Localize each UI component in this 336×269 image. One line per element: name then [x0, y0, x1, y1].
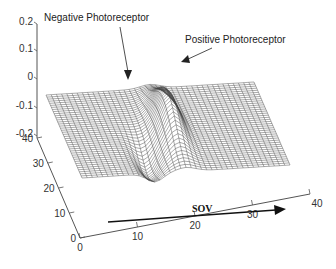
mesh-line-x — [223, 84, 259, 167]
x-tick-mark — [137, 222, 138, 227]
mesh-line-x — [77, 93, 113, 176]
x-tick-label: 0 — [77, 242, 83, 253]
x-tick-label: 10 — [132, 231, 144, 242]
surface-chart: 0.20.10-0.1-0.2 010203040 010203040 Nega… — [0, 0, 336, 269]
x-tick-label: 40 — [311, 198, 323, 209]
mesh-line-x — [254, 82, 290, 165]
mesh-line-x — [218, 84, 254, 167]
y-tick-mark — [48, 162, 53, 163]
arrowhead-positive — [181, 55, 190, 63]
mesh-line-y — [80, 161, 288, 182]
x-tick-mark — [252, 200, 253, 205]
y-tick-mark — [37, 137, 42, 138]
mesh-line-x — [249, 82, 285, 165]
z-tick-label: 0 — [27, 71, 33, 82]
mesh-line-x — [238, 83, 274, 166]
z-tick-mark — [34, 22, 37, 24]
mesh-line-x — [62, 94, 98, 177]
y-tick-label: 0 — [70, 233, 76, 244]
surface-mesh — [46, 82, 290, 182]
mesh-line-x — [233, 83, 269, 166]
mesh-line-x — [244, 83, 280, 166]
mesh-line-x — [67, 94, 103, 177]
mesh-line-x — [197, 86, 233, 169]
mesh-line-x — [228, 84, 264, 167]
annotation-positive-photoreceptor: Positive Photoreceptor — [185, 34, 286, 45]
y-tick-mark — [69, 212, 74, 213]
mesh-line-x — [207, 85, 243, 168]
annotation-arrow-negative — [120, 27, 128, 72]
z-tick-label: 0.1 — [19, 43, 33, 54]
z-tick-label: 0.2 — [19, 16, 33, 27]
y-tick-label: 10 — [54, 208, 66, 219]
mesh-line-x — [46, 95, 82, 178]
x-tick-label: 20 — [189, 220, 201, 231]
z-tick-label: -0.1 — [16, 100, 34, 111]
y-tick-label: 40 — [22, 133, 34, 144]
sov-label: SOV — [192, 203, 213, 214]
mesh-line-x — [72, 93, 108, 176]
annotation-negative-photoreceptor: Negative Photoreceptor — [44, 12, 150, 23]
mesh-line-x — [202, 85, 238, 168]
sov-arrowhead — [274, 205, 286, 215]
mesh-line-x — [212, 85, 248, 168]
mesh-line-x — [88, 92, 124, 175]
mesh-line-x — [82, 93, 118, 176]
x-tick-mark — [309, 189, 310, 194]
arrowhead-negative — [124, 70, 132, 80]
mesh-line-x — [51, 95, 87, 178]
y-tick-mark — [59, 187, 64, 188]
y-tick-label: 30 — [33, 158, 45, 169]
annotation-arrow-positive — [186, 48, 212, 60]
mesh-line-y — [68, 104, 276, 149]
y-tick-label: 20 — [43, 183, 55, 194]
mesh-line-x — [56, 94, 92, 177]
